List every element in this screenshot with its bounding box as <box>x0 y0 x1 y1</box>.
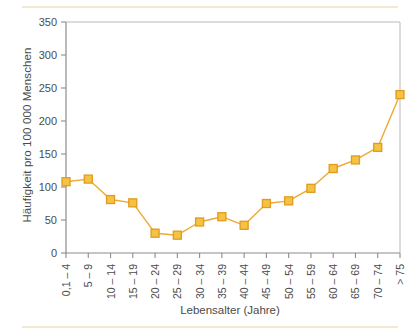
y-axis-ticks <box>61 22 66 253</box>
x-tick-label: 45 – 49 <box>260 264 272 299</box>
data-point-marker <box>396 91 404 99</box>
x-tick-label: 20 – 24 <box>149 264 161 299</box>
data-point-marker <box>240 221 248 229</box>
x-tick-label: 70 – 74 <box>372 264 384 299</box>
data-point-marker <box>285 197 293 205</box>
data-point-marker <box>307 184 315 192</box>
x-tick-label: 65 – 69 <box>349 264 361 299</box>
x-tick-label: 35 – 39 <box>216 264 228 299</box>
x-tick-label: > 75 <box>394 264 406 285</box>
y-tick-label: 250 <box>39 82 57 94</box>
x-tick-label: 50 – 54 <box>283 264 295 299</box>
x-tick-label: 40 – 44 <box>238 264 250 299</box>
x-axis-ticks <box>66 253 400 258</box>
x-tick-label: 60 – 64 <box>327 264 339 299</box>
data-point-marker <box>173 231 181 239</box>
x-tick-label: 25 – 29 <box>171 264 183 299</box>
data-point-marker <box>262 200 270 208</box>
data-series-line <box>66 95 400 236</box>
y-tick-label: 50 <box>45 214 57 226</box>
x-tick-label: 10 – 14 <box>105 264 117 299</box>
y-tick-label: 0 <box>51 247 57 259</box>
axis-frame <box>66 22 400 253</box>
data-point-marker <box>84 175 92 183</box>
x-tick-label: 0,1 – 4 <box>60 264 72 296</box>
data-point-marker <box>129 199 137 207</box>
data-point-marker <box>351 156 359 164</box>
line-chart-svg: 0,1 – 45 – 910 – 1415 – 1920 – 2425 – 29… <box>0 0 420 336</box>
y-tick-label: 150 <box>39 148 57 160</box>
x-tick-label: 55 – 59 <box>305 264 317 299</box>
data-point-marker <box>62 178 70 186</box>
data-point-marker <box>329 165 337 173</box>
data-point-marker <box>107 196 115 204</box>
y-tick-label: 350 <box>39 16 57 28</box>
y-tick-label: 100 <box>39 181 57 193</box>
data-point-marker <box>151 229 159 237</box>
x-tick-label: 15 – 19 <box>127 264 139 299</box>
x-tick-label: 30 – 34 <box>194 264 206 299</box>
y-tick-label: 200 <box>39 115 57 127</box>
data-point-marker <box>218 213 226 221</box>
data-point-marker <box>196 218 204 226</box>
plot-area: 0,1 – 45 – 910 – 1415 – 1920 – 2425 – 29… <box>0 0 420 336</box>
x-tick-label: 5 – 9 <box>82 264 94 288</box>
x-axis-tick-labels: 0,1 – 45 – 910 – 1415 – 1920 – 2425 – 29… <box>60 264 406 299</box>
y-axis-tick-labels: 050100150200250300350 <box>39 16 57 259</box>
data-point-marker <box>374 143 382 151</box>
data-series-markers <box>62 91 404 240</box>
y-tick-label: 300 <box>39 49 57 61</box>
chart-figure: Häufigkeit pro 100 000 Menschen Lebensal… <box>0 0 420 336</box>
